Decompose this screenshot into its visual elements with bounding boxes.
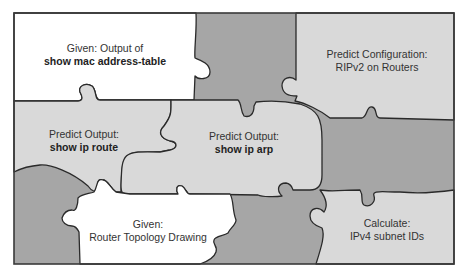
label-line2: RIPv2 on Routers: [327, 61, 428, 74]
label-line2: show ip route: [49, 141, 119, 154]
label-line1: Predict Output:: [209, 130, 279, 143]
label-line1: Predict Output:: [49, 128, 119, 141]
label-line1: Predict Configuration:: [327, 48, 428, 61]
label-line1: Given: Output of: [44, 42, 166, 55]
label-line1: Given:: [89, 218, 207, 231]
label-predict-ip-arp: Predict Output: show ip arp: [209, 130, 279, 156]
label-given-topology: Given: Router Topology Drawing: [89, 218, 207, 244]
label-line1: Calculate:: [350, 217, 424, 230]
label-predict-rip-config: Predict Configuration: RIPv2 on Routers: [327, 48, 428, 74]
label-given-mac-table: Given: Output of show mac address-table: [44, 42, 166, 68]
label-calculate-subnets: Calculate: IPv4 subnet IDs: [350, 217, 424, 243]
label-line2: IPv4 subnet IDs: [350, 230, 424, 243]
label-predict-ip-route: Predict Output: show ip route: [49, 128, 119, 154]
label-line2: Router Topology Drawing: [89, 231, 207, 244]
label-line2: show ip arp: [209, 143, 279, 156]
label-line2: show mac address-table: [44, 55, 166, 68]
